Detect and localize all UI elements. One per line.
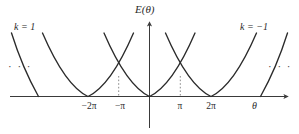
- ellipsis-right: · · ·: [268, 60, 292, 72]
- y-axis-label: E(θ): [135, 4, 154, 15]
- x-tick-label-pi: π: [172, 101, 188, 111]
- ellipsis-left: · · ·: [8, 60, 32, 72]
- x-tick-label-minus-pi: −π: [109, 101, 131, 111]
- x-axis-label: θ: [252, 101, 257, 111]
- annotation-k-left: k = 1: [14, 22, 35, 32]
- energy-band-figure: E(θ) θ k = 1 k = −1 −2π −π π 2π · · · · …: [0, 0, 299, 134]
- x-tick-label-minus-two-pi: −2π: [75, 101, 103, 111]
- x-tick-label-two-pi: 2π: [199, 101, 223, 111]
- annotation-k-right: k = −1: [240, 22, 268, 32]
